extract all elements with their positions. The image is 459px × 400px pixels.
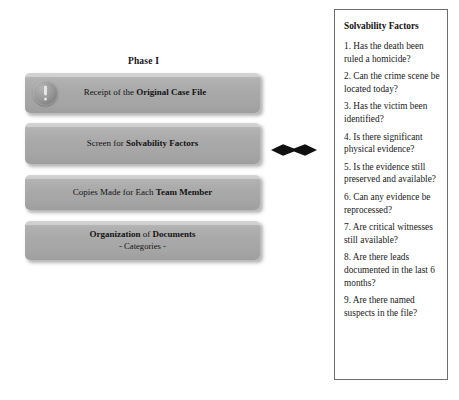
double-headed-arrow-icon [271, 141, 317, 159]
organization-text-bold2: Documents [153, 229, 196, 239]
list-item: 2. Can the crime scene be located today? [344, 70, 440, 95]
receipt-text-bold: Original Case File [136, 87, 206, 97]
flow-box-organization-label: Organization of Documents- Categories - [84, 229, 202, 253]
solvability-factors-panel: Solvability Factors 1. Has the death bee… [334, 9, 448, 380]
organization-text-bold: Organization [90, 229, 141, 239]
list-item: 3. Has the victim been identified? [344, 100, 440, 125]
flow-box-screen[interactable]: Screen for Solvability Factors [25, 123, 260, 164]
list-item: 8. Are there leads documented in the las… [344, 251, 440, 289]
solvability-factor-list: 1. Has the death been ruled a homicide? … [344, 40, 440, 319]
organization-text-normal: of [141, 229, 153, 239]
receipt-text-normal: Receipt of the [84, 87, 137, 97]
copies-text-bold: Team Member [156, 187, 212, 197]
flow-box-receipt-label: Receipt of the Original Case File [45, 87, 245, 99]
phase-title: Phase I [25, 55, 262, 67]
list-item: 9. Are there named suspects in the file? [344, 294, 440, 319]
copies-text-normal: Copies Made for Each [73, 187, 156, 197]
flow-box-screen-label: Screen for Solvability Factors [81, 138, 205, 150]
diagram-canvas: Phase I Receipt of the Original Case Fil… [0, 0, 459, 400]
flow-box-copies[interactable]: Copies Made for Each Team Member [25, 175, 260, 210]
exclamation-circle-icon [33, 81, 58, 106]
flow-box-receipt[interactable]: Receipt of the Original Case File [25, 73, 260, 113]
flow-box-organization[interactable]: Organization of Documents- Categories - [25, 221, 260, 260]
list-item: 6. Can any evidence be reprocessed? [344, 191, 440, 216]
list-item: 1. Has the death been ruled a homicide? [344, 40, 440, 65]
organization-subtitle: - Categories - [90, 241, 196, 253]
screen-text-bold: Solvability Factors [126, 138, 198, 148]
flow-box-copies-label: Copies Made for Each Team Member [67, 187, 218, 199]
screen-text-normal: Screen for [87, 138, 126, 148]
panel-title: Solvability Factors [344, 20, 440, 32]
phase-one-flow: Phase I Receipt of the Original Case Fil… [25, 55, 262, 260]
list-item: 7. Are critical witnesses still availabl… [344, 221, 440, 246]
list-item: 4. Is there significant physical evidenc… [344, 131, 440, 156]
list-item: 5. Is the evidence still preserved and a… [344, 161, 440, 186]
